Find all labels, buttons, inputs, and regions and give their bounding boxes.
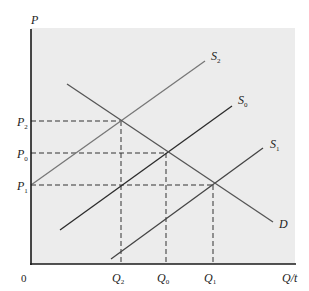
- plot-panel: [31, 28, 295, 264]
- supply-demand-diagram: P Q/t 0 P2 P0 P1 Q2 Q0 Q1 S2 S0 S1 D: [0, 0, 309, 291]
- origin-label: 0: [21, 272, 27, 284]
- y-axis-label: P: [30, 13, 39, 27]
- quantity-label-q1: Q1: [204, 271, 217, 286]
- quantity-label-q0: Q0: [157, 271, 170, 286]
- curve-label-d: D: [278, 217, 288, 231]
- price-label-p1: P1: [16, 179, 28, 195]
- quantity-label-q2: Q2: [112, 271, 125, 286]
- price-label-p0: P0: [16, 147, 28, 163]
- x-axis-label: Q/t: [282, 271, 298, 285]
- price-label-p2: P2: [16, 115, 28, 131]
